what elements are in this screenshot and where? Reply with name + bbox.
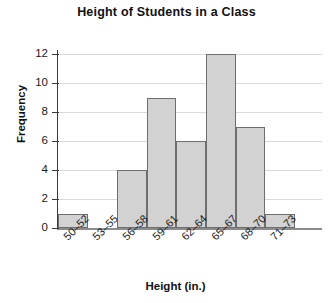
histogram-chart: Height of Students in a Class 024681012 … xyxy=(0,0,333,303)
y-tick-mark xyxy=(52,199,59,200)
y-tick-label: 8 xyxy=(26,106,48,117)
y-axis-title: Frequency xyxy=(15,64,27,164)
histogram-bar xyxy=(206,54,236,228)
x-axis-title: Height (in.) xyxy=(58,280,293,292)
y-tick-mark xyxy=(52,228,59,229)
y-tick-label: 4 xyxy=(26,164,48,175)
y-tick-mark xyxy=(52,141,59,142)
y-tick-mark xyxy=(52,170,59,171)
y-tick-label: 6 xyxy=(26,135,48,146)
chart-title: Height of Students in a Class xyxy=(0,5,333,19)
bars-layer xyxy=(58,54,322,228)
y-tick-label: 12 xyxy=(26,48,48,59)
y-tick-label: 0 xyxy=(26,222,48,233)
y-tick-mark xyxy=(52,112,59,113)
histogram-bar xyxy=(147,98,177,229)
y-tick-label: 2 xyxy=(26,193,48,204)
y-tick-mark xyxy=(52,54,59,55)
y-tick-label: 10 xyxy=(26,77,48,88)
y-axis-spine xyxy=(57,50,58,230)
y-tick-mark xyxy=(52,83,59,84)
